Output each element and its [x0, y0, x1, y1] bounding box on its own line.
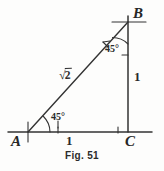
- side-ab-line: [28, 22, 128, 132]
- angle-arc-a: [44, 117, 51, 133]
- side-label-ac: 1: [66, 134, 73, 147]
- geometry-figure: B A C 1 1 √2 45° 45° Fig. 51: [0, 0, 164, 171]
- vertex-label-b: B: [133, 6, 143, 21]
- angle-label-b: 45°: [105, 44, 119, 54]
- angle-b-arrowhead-upper: [103, 41, 110, 42]
- radicand-value: 2: [64, 68, 71, 81]
- angle-label-a: 45°: [51, 112, 65, 122]
- vertex-label-c: C: [125, 134, 135, 149]
- side-label-ab: √2: [59, 66, 72, 82]
- side-label-bc: 1: [134, 70, 141, 83]
- figure-caption: Fig. 51: [0, 150, 164, 161]
- radical-expression: √2: [59, 68, 72, 81]
- vertex-label-a: A: [11, 134, 21, 149]
- triangle-drawing: [0, 0, 164, 171]
